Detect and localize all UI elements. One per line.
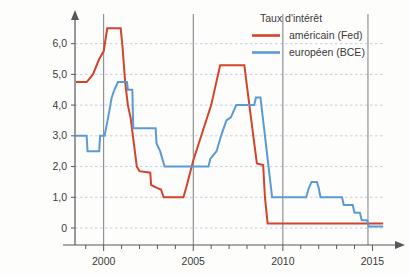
y-tick-label: 4,0 xyxy=(52,99,67,111)
y-axis-arrow xyxy=(71,10,79,20)
legend-label: américain (Fed) xyxy=(289,29,363,41)
x-axis-tick-labels: 2000200520102015 xyxy=(92,255,384,267)
chart-canvas: 01,02,03,04,05,06,0 2000200520102015 Tau… xyxy=(0,0,409,275)
interest-rate-chart: 01,02,03,04,05,06,0 2000200520102015 Tau… xyxy=(0,0,409,275)
data-series xyxy=(76,28,383,226)
x-tick-label: 2005 xyxy=(182,255,206,267)
legend-title: Taux d'intérêt xyxy=(260,12,322,24)
y-axis-tick-labels: 01,02,03,04,05,06,0 xyxy=(52,37,67,233)
series-line-bce xyxy=(76,82,383,226)
legend-entries: américain (Fed)européen (BCE) xyxy=(252,29,365,58)
x-axis-arrow xyxy=(395,241,405,249)
horizontal-gridlines xyxy=(75,44,385,228)
x-tick-label: 2010 xyxy=(271,255,295,267)
y-tick-label: 3,0 xyxy=(52,129,67,141)
x-axis-ticks xyxy=(86,245,373,251)
legend-label: européen (BCE) xyxy=(289,46,365,58)
y-tick-label: 0 xyxy=(61,222,67,234)
x-tick-label: 2000 xyxy=(92,255,116,267)
y-tick-label: 1,0 xyxy=(52,191,67,203)
y-tick-label: 5,0 xyxy=(52,68,67,80)
y-tick-label: 6,0 xyxy=(52,37,67,49)
legend: Taux d'intérêt américain (Fed)européen (… xyxy=(252,12,365,58)
x-tick-label: 2015 xyxy=(361,255,385,267)
y-tick-label: 2,0 xyxy=(52,160,67,172)
